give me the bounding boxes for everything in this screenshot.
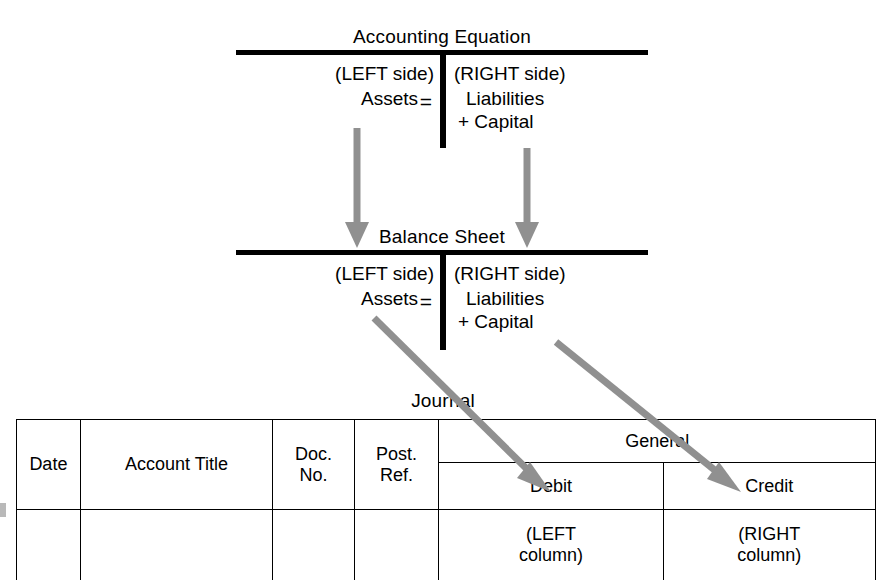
scan-artifact-mark (0, 503, 6, 517)
accounting-equation-diagram: Accounting Equation (LEFT side) Assets =… (0, 0, 892, 580)
arrow-assets-to-debit (374, 318, 551, 492)
arrow-liabilities-capital-to-credit (556, 342, 741, 492)
balance-sheet-to-journal-arrows (0, 0, 892, 580)
